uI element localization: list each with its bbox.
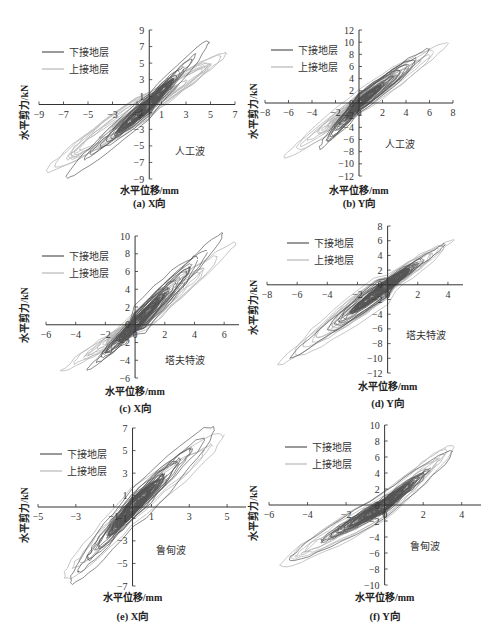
chart-panel-f: −6−4−2024−10−8−6−4−20246810下接地层上接地层鲁甸波水平… — [245, 420, 493, 640]
y-tick-label: 6 — [378, 235, 383, 246]
legend-label-lower: 下接地层 — [312, 441, 352, 453]
y-tick-label: 8 — [349, 49, 354, 60]
x-tick-label: −2 — [352, 289, 363, 300]
y-tick-label: −12 — [338, 171, 354, 182]
x-tick-label: −4 — [302, 509, 313, 520]
y-tick-label: 4 — [378, 250, 383, 261]
y-tick-label: −4 — [343, 122, 354, 133]
panel-caption: (f) Y向 — [369, 610, 399, 623]
x-tick-label: 0 — [133, 329, 138, 340]
panel-caption: (c) X向 — [119, 402, 151, 415]
x-tick-label: 2 — [380, 107, 385, 118]
legend: 下接地层上接地层 — [40, 448, 107, 477]
x-tick-label: 6 — [427, 107, 432, 118]
y-tick-label: −2 — [369, 516, 380, 527]
y-tick-label: 8 — [125, 248, 130, 259]
panel-caption: (e) X向 — [117, 610, 149, 623]
y-tick-label: −5 — [134, 140, 145, 151]
x-tick-label: −2 — [100, 329, 111, 340]
y-tick-label: 2 — [378, 265, 383, 276]
y-tick-label: 0 — [125, 319, 130, 330]
x-axis-label: 水平位移/mm — [354, 591, 415, 603]
x-tick-label: 5 — [208, 109, 213, 120]
chart-svg-b: −8−6−4−202468−12−10−8−6−4−2024681012下接地层… — [245, 0, 493, 212]
axes: −8−6−4−2024−12−10−8−6−4−202468 — [262, 221, 463, 379]
y-tick-label: −6 — [343, 134, 354, 145]
hysteresis-curves — [284, 43, 449, 159]
y-tick-label: −8 — [372, 338, 383, 349]
y-tick-label: −3 — [134, 124, 145, 135]
chart-svg-d: −8−6−4−2024−12−10−8−6−4−202468下接地层上接地层塔夫… — [245, 212, 493, 420]
y-tick-label: −4 — [372, 309, 383, 320]
x-tick-label: 0 — [385, 289, 390, 300]
y-axis-label: 水平剪力/kN — [18, 84, 30, 141]
x-tick-label: −9 — [34, 109, 45, 120]
x-tick-label: −2 — [330, 107, 341, 118]
x-tick-label: 2 — [162, 329, 167, 340]
y-tick-label: −1 — [134, 107, 145, 118]
x-tick-label: −7 — [58, 109, 69, 120]
y-axis-label: 水平剪力/kN — [247, 82, 259, 139]
y-tick-label: 9 — [139, 25, 144, 36]
x-tick-label: 4 — [459, 509, 464, 520]
y-tick-label: −6 — [372, 323, 383, 334]
y-tick-label: −7 — [134, 157, 145, 168]
y-tick-label: 0 — [349, 98, 354, 109]
y-tick-label: 10 — [120, 231, 130, 242]
y-tick-label: 2 — [375, 484, 380, 495]
x-tick-label: 8 — [451, 107, 456, 118]
y-tick-label: −10 — [338, 158, 354, 169]
x-tick-label: 4 — [445, 289, 450, 300]
y-tick-label: 7 — [123, 423, 128, 434]
legend-label-upper: 上接地层 — [314, 254, 354, 266]
y-tick-label: 1 — [139, 91, 144, 102]
legend-label-lower: 下接地层 — [69, 250, 109, 262]
y-tick-label: −6 — [369, 548, 380, 559]
chart-panel-c: −6−4−20246−6−4−20246810下接地层上接地层塔夫特波水平剪力/… — [0, 212, 248, 420]
y-tick-label: −2 — [343, 110, 354, 121]
legend-label-lower: 下接地层 — [67, 448, 107, 460]
wave-annotation: 鲁甸波 — [156, 544, 186, 556]
x-tick-label: 1 — [159, 109, 164, 120]
wave-annotation: 人工波 — [175, 145, 205, 157]
chart-panel-a: −9−7−5−3−11357−9−7−5−3−113579下接地层上接地层人工波… — [0, 0, 248, 212]
legend-label-upper: 上接地层 — [67, 465, 107, 477]
chart-svg-e: −5−3−1135−7−5−3−11357下接地层上接地层鲁甸波水平剪力/kN水… — [0, 420, 248, 640]
x-tick-label: 6 — [222, 329, 227, 340]
x-tick-label: 3 — [187, 511, 192, 522]
y-tick-label: 7 — [139, 41, 144, 52]
y-tick-label: 2 — [349, 85, 354, 96]
x-tick-label: 7 — [233, 109, 238, 120]
y-tick-label: 5 — [139, 58, 144, 69]
y-tick-label: −12 — [367, 368, 383, 379]
y-tick-label: 8 — [375, 436, 380, 447]
y-tick-label: 8 — [378, 221, 383, 232]
x-tick-label: −4 — [322, 289, 333, 300]
legend: 下接地层上接地层 — [287, 237, 354, 266]
x-tick-label: −4 — [70, 329, 81, 340]
x-tick-label: 2 — [421, 509, 426, 520]
y-tick-label: −4 — [369, 532, 380, 543]
x-tick-label: 5 — [225, 511, 230, 522]
x-tick-label: −5 — [83, 109, 94, 120]
y-tick-label: −8 — [369, 564, 380, 575]
x-axis-label: 水平位移/mm — [119, 184, 180, 196]
y-tick-label: 4 — [375, 468, 380, 479]
x-axis-label: 水平位移/mm — [328, 184, 389, 196]
legend: 下接地层上接地层 — [271, 44, 338, 73]
wave-annotation: 人工波 — [385, 138, 415, 150]
x-tick-label: −6 — [292, 289, 303, 300]
axes: −8−6−4−202468−12−10−8−6−4−2024681012 — [260, 25, 456, 182]
panel-caption: (d) Y向 — [371, 397, 404, 410]
y-tick-label: 4 — [349, 73, 354, 84]
y-tick-label: 3 — [139, 74, 144, 85]
y-tick-label: −4 — [119, 355, 130, 366]
y-tick-label: 10 — [370, 420, 380, 431]
y-axis-label: 水平剪力/kN — [247, 279, 259, 336]
y-tick-label: 5 — [123, 445, 128, 456]
y-tick-label: 0 — [378, 279, 383, 290]
x-tick-label: 0 — [357, 107, 362, 118]
y-tick-label: 12 — [344, 25, 354, 36]
y-tick-label: −1 — [117, 513, 128, 524]
legend: 下接地层上接地层 — [42, 46, 109, 75]
